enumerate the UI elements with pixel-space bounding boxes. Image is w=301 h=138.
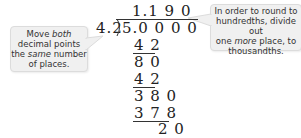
- callout-emphasis: more: [234, 36, 256, 46]
- callout-text: one: [216, 36, 235, 46]
- callout-text: the: [11, 49, 28, 59]
- step-row: 3 8 0: [134, 87, 177, 105]
- step-row: 4 2: [134, 70, 161, 88]
- callout-text: Move: [27, 29, 53, 39]
- callout-emphasis: same: [28, 49, 51, 59]
- long-division: 1.1 9 0 4.2 5.0 0 0 0 4 2 8 0 4 2 3 8 0 …: [96, 0, 211, 138]
- dividend: 5.0 0 0 0: [122, 19, 198, 37]
- callout-text: thousandths.: [211, 46, 301, 56]
- step-row: 4 2: [134, 36, 161, 54]
- callout-text: hundredths, divide out: [211, 16, 301, 36]
- callout-text: of places.: [11, 59, 87, 69]
- callout-emphasis: both: [52, 29, 71, 39]
- callout-move-decimal: Move both decimal points the same number…: [10, 26, 88, 72]
- callout-text: decimal points: [11, 39, 87, 49]
- callout-text: number: [51, 49, 87, 59]
- callout-text: In order to round to: [211, 6, 301, 16]
- step-row: 2 0: [158, 120, 185, 138]
- callout-round-hundredths: In order to round to hundredths, divide …: [210, 4, 301, 51]
- step-row: 8 0: [134, 53, 161, 71]
- callout-text: place, to: [257, 36, 297, 46]
- quotient: 1.1 9 0: [132, 2, 191, 20]
